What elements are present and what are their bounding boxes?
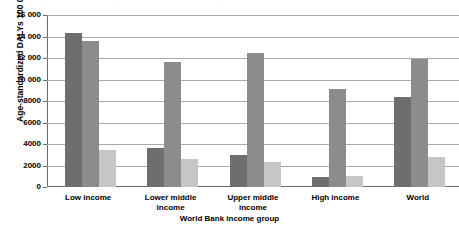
y-tick-mark xyxy=(43,187,47,188)
y-tick-mark xyxy=(43,15,47,16)
bar xyxy=(65,33,82,187)
bar xyxy=(428,157,445,187)
bar xyxy=(82,41,99,187)
bar-group xyxy=(65,15,116,187)
y-tick-label: 0 xyxy=(1,182,41,191)
x-tick-label: Upper middleincome xyxy=(207,193,299,212)
x-tick-label-line: Low income xyxy=(42,193,134,203)
y-tick-mark xyxy=(43,123,47,124)
x-axis-title: World Bank income group xyxy=(0,214,459,223)
bar xyxy=(181,159,198,187)
bar xyxy=(247,53,264,187)
x-tick-label: Low income xyxy=(42,193,134,203)
y-tick-label: 12 000 xyxy=(1,53,41,62)
y-tick-label: 16 000 xyxy=(1,10,41,19)
bar xyxy=(346,176,363,187)
x-tick-label-line: Lower middle xyxy=(124,193,216,203)
x-tick-label-line: Upper middle xyxy=(207,193,299,203)
y-tick-label: 10 000 xyxy=(1,75,41,84)
cropped-legend-text: ● ● ● xyxy=(40,0,223,3)
bar xyxy=(312,177,329,187)
bar xyxy=(147,148,164,187)
x-tick-label: High income xyxy=(289,193,381,203)
x-tick-label-line: High income xyxy=(289,193,381,203)
bar xyxy=(164,62,181,187)
bar-group xyxy=(312,15,363,187)
y-tick-mark xyxy=(43,166,47,167)
y-tick-mark xyxy=(43,37,47,38)
x-tick-label: World xyxy=(372,193,459,203)
y-tick-label: 6000 xyxy=(1,118,41,127)
x-tick-label: Lower middleincome xyxy=(124,193,216,212)
bar-group xyxy=(147,15,198,187)
y-tick-mark xyxy=(43,101,47,102)
y-tick-label: 2000 xyxy=(1,161,41,170)
y-tick-mark xyxy=(43,58,47,59)
y-tick-label: 8000 xyxy=(1,96,41,105)
bar xyxy=(99,150,116,187)
bar-chart: ● ● ● Age-standardized DALYs 100 000 Wor… xyxy=(0,0,459,228)
bar xyxy=(329,89,346,187)
bar xyxy=(411,59,428,187)
bar xyxy=(394,97,411,187)
x-tick-label-line: World xyxy=(372,193,459,203)
bar-group xyxy=(230,15,281,187)
bar-group xyxy=(394,15,445,187)
bar xyxy=(230,155,247,187)
y-tick-mark xyxy=(43,80,47,81)
y-tick-label: 14 000 xyxy=(1,32,41,41)
cropped-legend-strip: ● ● ● xyxy=(0,0,459,9)
x-tick-label-line: income xyxy=(124,203,216,213)
y-tick-mark xyxy=(43,144,47,145)
x-tick-label-line: income xyxy=(207,203,299,213)
plot-area xyxy=(47,15,459,187)
bar xyxy=(264,162,281,187)
y-tick-label: 4000 xyxy=(1,139,41,148)
